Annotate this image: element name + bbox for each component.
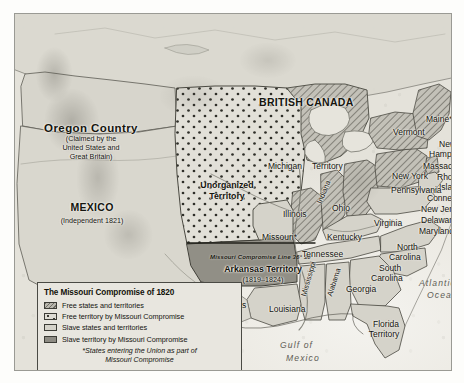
legend-label-free-states: Free states and territories: [62, 301, 144, 310]
legend-item-slave-territory-mc: Slave territory by Missouri Compromise: [44, 335, 235, 344]
missouri-compromise-map: BRITISH CANADA Oregon Country (Claimed b…: [0, 0, 464, 383]
free-states-swatch: [44, 302, 57, 309]
legend-label-slave-territory-mc: Slave territory by Missouri Compromise: [62, 335, 187, 344]
slave-territory-mc-swatch: [44, 336, 57, 343]
alabama-state: [325, 262, 351, 320]
louisiana-state: [247, 284, 301, 326]
free-territory-mc-swatch: [44, 313, 57, 320]
legend-item-free-states: Free states and territories: [44, 301, 235, 310]
legend-item-free-territory-mc: Free territory by Missouri Compromise: [44, 312, 235, 321]
legend-label-free-territory-mc: Free territory by Missouri Compromise: [62, 312, 184, 321]
maryland-state: [419, 172, 443, 190]
slave-states-swatch: [44, 324, 57, 331]
legend-note-line2: Missouri Compromise: [44, 356, 235, 365]
legend-item-slave-states: Slave states and territories: [44, 323, 235, 332]
legend-label-slave-states: Slave states and territories: [62, 323, 147, 332]
illinois-state: [291, 188, 323, 244]
missouri-state: [253, 200, 293, 240]
legend-title: The Missouri Compromise of 1820: [44, 288, 235, 297]
map-legend: The Missouri Compromise of 1820 Free sta…: [37, 282, 242, 371]
map-frame: BRITISH CANADA Oregon Country (Claimed b…: [14, 13, 452, 371]
new-england-states: [413, 84, 451, 140]
legend-note-line1: *States entering the Union as part of: [44, 347, 235, 356]
north-carolina-state: [381, 220, 441, 252]
